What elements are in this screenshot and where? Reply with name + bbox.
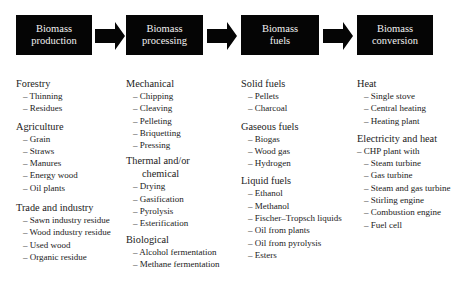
section-forestry: Forestry – Thinning – Residues <box>16 77 111 115</box>
section-title: Liquid fuels <box>241 174 342 187</box>
stage-label-line2: conversion <box>372 35 418 47</box>
stage-label-line2: production <box>31 35 77 47</box>
section-title: Mechanical <box>126 77 219 90</box>
stage-label-line1: Biomass <box>377 23 413 35</box>
stage-label-line2: fuels <box>270 35 290 47</box>
list-item: – Drying <box>126 180 219 192</box>
stage-label-line2: processing <box>142 35 187 47</box>
list-item: – Used wood <box>16 239 111 251</box>
list-item: – Ethanol <box>241 187 342 199</box>
list-item: – Alcohol fermentation <box>126 246 219 258</box>
section-title: Heat <box>357 77 450 90</box>
list-item-lead: – CHP plant with <box>357 145 450 157</box>
list-item: – Oil from pyrolysis <box>241 237 342 249</box>
list-item: – Fischer–Tropsch liquids <box>241 212 342 224</box>
list-item: – Methane fermentation <box>126 258 219 270</box>
section-liquid-fuels: Liquid fuels – Ethanol – Methanol – Fisc… <box>241 174 342 261</box>
arrow-right-icon <box>93 20 127 52</box>
list-item: – Biogas <box>241 133 342 145</box>
list-item: – Steam and gas turbine <box>357 182 450 194</box>
list-item: – Central heating <box>357 102 450 114</box>
list-item: – Single stove <box>357 90 450 102</box>
section-title: Forestry <box>16 77 111 90</box>
list-item: – Esters <box>241 249 342 261</box>
list-item: – Charcoal <box>241 102 342 114</box>
section-thermal-chemical: Thermal and/or chemical – Drying – Gasif… <box>126 154 219 229</box>
section-agriculture: Agriculture – Grain – Straws – Manures –… <box>16 120 111 194</box>
section-title-cont: chemical <box>126 167 219 180</box>
list-item: – Briquetting <box>126 127 219 139</box>
list-item: – Pyrolysis <box>126 205 219 217</box>
list-item: – Organic residue <box>16 251 111 263</box>
list-item: – Hydrogen <box>241 157 342 169</box>
stage-box-conversion: Biomass conversion <box>357 15 433 55</box>
list-item: – Energy wood <box>16 169 111 181</box>
arrow-right-icon <box>321 20 355 52</box>
arrow-right-icon <box>205 20 239 52</box>
section-title: Thermal and/or <box>126 154 219 167</box>
stage-label-line1: Biomass <box>36 23 72 35</box>
list-item: – Cleaving <box>126 102 219 114</box>
section-solid-fuels: Solid fuels – Pellets – Charcoal <box>241 77 342 115</box>
list-item: – Gasification <box>126 193 219 205</box>
section-title: Trade and industry <box>16 201 111 214</box>
section-title: Agriculture <box>16 120 111 133</box>
section-biological: Biological – Alcohol fermentation – Meth… <box>126 233 219 271</box>
section-title: Electricity and heat <box>357 132 450 145</box>
section-electricity-heat: Electricity and heat – CHP plant with – … <box>357 132 450 231</box>
list-item: – Esterification <box>126 217 219 229</box>
section-mechanical: Mechanical – Chipping – Cleaving – Pelle… <box>126 77 219 151</box>
stage-box-processing: Biomass processing <box>126 15 203 55</box>
column-conversion: Heat – Single stove – Central heating – … <box>357 77 450 237</box>
list-item: – Wood industry residue <box>16 226 111 238</box>
list-item: – Combustion engine <box>357 206 450 218</box>
list-item: – Heating plant <box>357 115 450 127</box>
section-title: Biological <box>126 233 219 246</box>
list-item: – Stirling engine <box>357 194 450 206</box>
list-item: – Residues <box>16 102 111 114</box>
list-item: – Pellets <box>241 90 342 102</box>
list-item: – Oil plants <box>16 182 111 194</box>
list-item: – Wood gas <box>241 145 342 157</box>
list-item: – Pelleting <box>126 115 219 127</box>
stage-label-line1: Biomass <box>262 23 298 35</box>
list-item: – Thinning <box>16 90 111 102</box>
stage-label-line1: Biomass <box>146 23 182 35</box>
section-gaseous-fuels: Gaseous fuels – Biogas – Wood gas – Hydr… <box>241 120 342 170</box>
section-heat: Heat – Single stove – Central heating – … <box>357 77 450 127</box>
list-item: – Sawn industry residue <box>16 214 111 226</box>
stage-box-production: Biomass production <box>16 15 92 55</box>
list-item: – Grain <box>16 133 111 145</box>
section-trade-industry: Trade and industry – Sawn industry resid… <box>16 201 111 263</box>
list-item: – Oil from plants <box>241 224 342 236</box>
list-item: – Chipping <box>126 90 219 102</box>
list-item: – Manures <box>16 157 111 169</box>
column-processing: Mechanical – Chipping – Cleaving – Pelle… <box>126 77 219 276</box>
list-item: – Steam turbine <box>357 157 450 169</box>
list-item: – Methanol <box>241 200 342 212</box>
stage-box-fuels: Biomass fuels <box>241 15 319 55</box>
section-title: Gaseous fuels <box>241 120 342 133</box>
column-fuels: Solid fuels – Pellets – Charcoal Gaseous… <box>241 77 342 267</box>
list-item: – Fuel cell <box>357 219 450 231</box>
column-production: Forestry – Thinning – Residues Agricultu… <box>16 77 111 269</box>
list-item: – Straws <box>16 145 111 157</box>
list-item: – Gas turbine <box>357 169 450 181</box>
section-title: Solid fuels <box>241 77 342 90</box>
list-item: – Pressing <box>126 139 219 151</box>
